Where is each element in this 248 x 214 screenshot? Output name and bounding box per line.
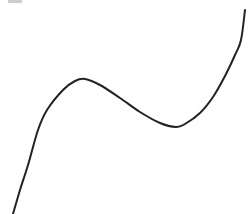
curve-plot: [0, 0, 248, 214]
curve-line: [13, 10, 245, 214]
